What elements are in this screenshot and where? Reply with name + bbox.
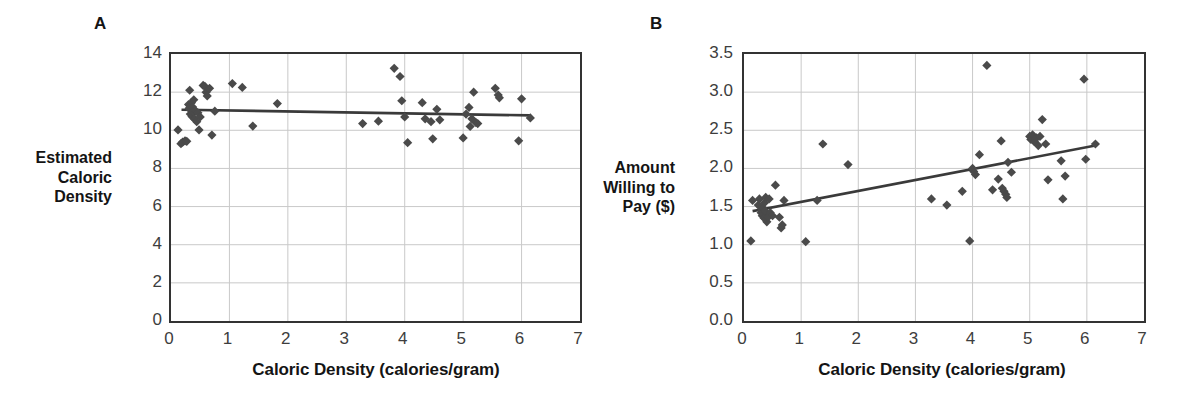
data-point: [459, 133, 468, 142]
data-point: [982, 61, 991, 70]
x-tick-label: 6: [1070, 330, 1100, 347]
data-point: [746, 236, 755, 245]
y-tick-label: 0.0: [681, 311, 733, 328]
y-tick-label: 4: [118, 234, 162, 251]
trendline: [182, 110, 531, 116]
data-point: [1058, 194, 1067, 203]
data-point: [1043, 175, 1052, 184]
data-point: [1081, 155, 1090, 164]
data-point: [942, 200, 951, 209]
data-point: [248, 121, 257, 130]
data-point: [228, 79, 237, 88]
x-tick-label: 6: [505, 330, 535, 347]
panel-a-x-axis-title: Caloric Density (calories/gram): [166, 360, 586, 380]
y-tick-label: 3.0: [681, 82, 733, 99]
y-tick-label: 8: [118, 158, 162, 175]
panel-b-y-axis-title: Amount Willing to Pay ($): [577, 158, 675, 217]
data-point: [958, 187, 967, 196]
y-tick-label: 14: [118, 44, 162, 61]
data-point: [469, 88, 478, 97]
x-tick-label: 1: [784, 330, 814, 347]
trendline: [753, 146, 1096, 212]
data-point: [210, 107, 219, 116]
x-tick-label: 4: [956, 330, 986, 347]
x-tick-label: 3: [898, 330, 928, 347]
panel-b-label: B: [650, 14, 662, 34]
data-point: [801, 237, 810, 246]
data-point: [374, 117, 383, 126]
y-tick-label: 1.0: [681, 234, 733, 251]
x-tick-label: 7: [1127, 330, 1157, 347]
y-tick-label: 2.5: [681, 120, 733, 137]
y-tick-label: 0.5: [681, 272, 733, 289]
y-tick-label: 0: [118, 311, 162, 328]
data-point: [238, 83, 247, 92]
data-point: [428, 134, 437, 143]
panel-b: B Amount Willing to Pay ($) Caloric Dens…: [577, 0, 1177, 407]
data-point: [818, 139, 827, 148]
data-point: [390, 64, 399, 73]
panel-b-data-layer: [744, 54, 1144, 321]
y-tick-label: 2.0: [681, 158, 733, 175]
y-tick-label: 3.5: [681, 44, 733, 61]
y-tick-label: 10: [118, 120, 162, 137]
x-tick-label: 1: [212, 330, 242, 347]
data-point: [1007, 168, 1016, 177]
data-point: [514, 136, 523, 145]
x-tick-label: 0: [154, 330, 184, 347]
data-point: [1041, 139, 1050, 148]
data-point: [418, 98, 427, 107]
data-point: [173, 125, 182, 134]
x-tick-label: 5: [1013, 330, 1043, 347]
panel-b-plot-area: [742, 52, 1146, 323]
data-point: [1061, 171, 1070, 180]
x-tick-label: 5: [446, 330, 476, 347]
data-point: [1003, 158, 1012, 167]
data-point: [194, 125, 203, 134]
data-point: [927, 194, 936, 203]
data-point: [207, 130, 216, 139]
panel-a: A Estimated Caloric Density Caloric Dens…: [0, 0, 600, 407]
data-point: [775, 213, 784, 222]
data-point: [273, 99, 282, 108]
x-tick-label: 3: [329, 330, 359, 347]
data-point: [1057, 156, 1066, 165]
panel-a-data-layer: [171, 54, 580, 321]
data-point: [395, 72, 404, 81]
y-tick-label: 6: [118, 196, 162, 213]
panel-a-y-axis-title: Estimated Caloric Density: [0, 148, 112, 207]
data-point: [843, 160, 852, 169]
data-point: [975, 150, 984, 159]
panel-a-label: A: [94, 14, 106, 34]
data-point: [185, 86, 194, 95]
data-point: [1038, 115, 1047, 124]
data-point: [435, 115, 444, 124]
panel-a-plot-area: [169, 52, 582, 323]
x-tick-label: 2: [841, 330, 871, 347]
panel-b-x-axis-title: Caloric Density (calories/gram): [732, 360, 1152, 380]
data-point: [403, 138, 412, 147]
data-point: [1079, 75, 1088, 84]
scatter-figure: A Estimated Caloric Density Caloric Dens…: [0, 0, 1177, 407]
y-tick-label: 12: [118, 82, 162, 99]
data-point: [517, 94, 526, 103]
data-point: [397, 96, 406, 105]
data-point: [771, 181, 780, 190]
data-point: [994, 175, 1003, 184]
data-point: [997, 136, 1006, 145]
data-point: [358, 119, 367, 128]
x-tick-label: 4: [388, 330, 418, 347]
y-tick-label: 2: [118, 272, 162, 289]
data-point: [965, 236, 974, 245]
y-tick-label: 1.5: [681, 196, 733, 213]
x-tick-label: 2: [271, 330, 301, 347]
x-tick-label: 0: [727, 330, 757, 347]
data-point: [988, 185, 997, 194]
